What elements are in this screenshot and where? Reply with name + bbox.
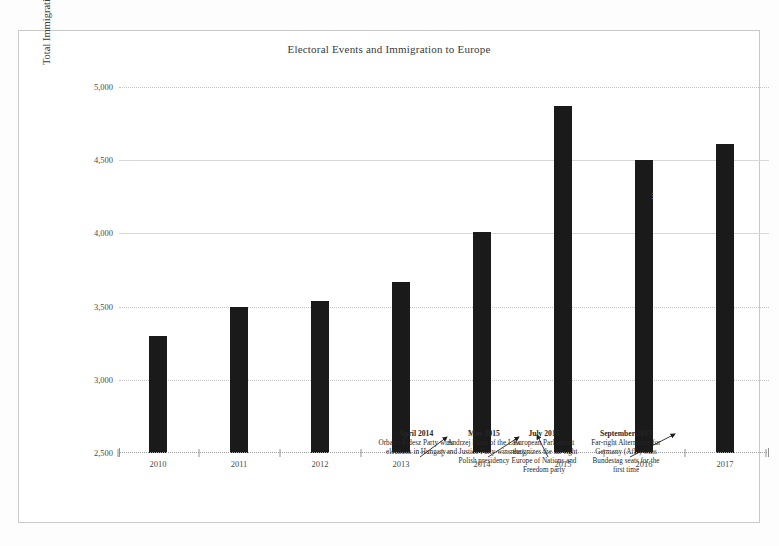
bar-2015 [554, 106, 572, 453]
annotation-date: July 2015 [504, 429, 584, 438]
x-axis-tick [765, 449, 766, 457]
bar-2011 [230, 307, 248, 453]
x-axis-tick [360, 449, 361, 457]
y-axis-tick-label: 2,500 [53, 448, 113, 458]
x-axis-tick [117, 449, 118, 457]
x-axis-right-cap [768, 448, 769, 457]
annotation-4: September 2017Far-right Alternative for … [586, 429, 666, 476]
bar-2016 [635, 160, 653, 453]
scan-artifact: ⋮ [649, 191, 665, 201]
annotation-text: European Parliament recognizes the far-r… [504, 439, 584, 476]
y-axis-tick-label: 4,500 [53, 155, 113, 165]
annotation-3: July 2015European Parliament recognizes … [504, 429, 584, 476]
bar-2013 [392, 282, 410, 453]
x-axis-tick-label: 2013 [371, 459, 431, 469]
x-axis-tick-label: 2012 [290, 459, 350, 469]
chart-title: Electoral Events and Immigration to Euro… [19, 43, 759, 55]
y-axis-tick-label: 5,000 [53, 82, 113, 92]
y-axis-tick-label: 3,000 [53, 375, 113, 385]
bar-2014 [473, 232, 491, 453]
annotation-text: Far-right Alternative for Germany (AfD) … [586, 439, 666, 476]
figure-frame: Electoral Events and Immigration to Euro… [18, 30, 760, 523]
gridline [119, 160, 769, 161]
bar-2010 [149, 336, 167, 453]
gridline [119, 87, 769, 88]
x-axis-tick-label: 2017 [695, 459, 755, 469]
x-axis-tick-label: 2011 [209, 459, 269, 469]
y-axis-tick-label: 4,000 [53, 228, 113, 238]
x-axis-left-cap [119, 448, 120, 457]
gridline [119, 307, 769, 308]
gridline [119, 380, 769, 381]
y-axis-tick-label: 3,500 [53, 302, 113, 312]
x-axis-tick [279, 449, 280, 457]
bar-2012 [311, 301, 329, 453]
y-axis-title: Total Immigration to European Countries,… [41, 0, 57, 123]
gridline [119, 233, 769, 234]
plot-area: 2,5003,0003,5004,0004,5005,000 201020112… [119, 87, 769, 453]
x-axis-tick [684, 449, 685, 457]
x-axis-tick-label: 2010 [128, 459, 188, 469]
x-axis-tick [198, 449, 199, 457]
annotation-date: September 2017 [586, 429, 666, 438]
bar-2017 [716, 144, 734, 453]
